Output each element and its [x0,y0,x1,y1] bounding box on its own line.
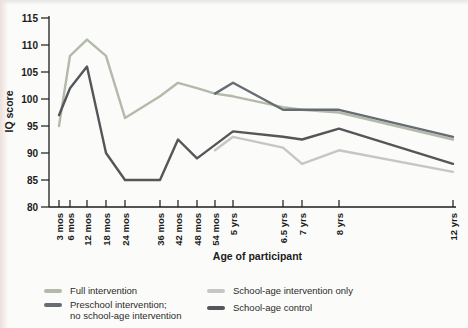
x-tick-label: 54 mos [210,213,221,246]
x-tick-label: 18 mos [101,213,112,246]
series-line-full-intervention [59,40,453,140]
legend-swatch [44,289,62,293]
x-tick-label: 5 yrs [228,213,239,235]
legend-label: School-age intervention only [233,285,353,296]
x-tick-label: 42 mos [173,213,184,246]
y-tick-label: 105 [21,67,38,78]
line-chart: 808590951001051101153 mos6 mos12 mos18 m… [0,0,468,272]
y-tick-label: 85 [27,175,39,186]
x-tick-label: 36 mos [155,213,166,246]
legend-label: Full intervention [70,285,137,296]
legend-swatch [207,306,225,310]
legend-label-line: Preschool intervention; [70,299,181,310]
x-tick-label: 3 mos [54,213,65,240]
legend-item-full-intervention: Full intervention [44,285,137,296]
legend-label: Preschool intervention;no school-age int… [70,299,181,321]
legend-label-line: School-age control [233,302,312,313]
legend-item-school-age-intervention-only: School-age intervention only [207,285,353,296]
y-tick-label: 90 [27,148,39,159]
x-tick-label: 7 yrs [297,213,308,235]
legend-label: School-age control [233,302,312,313]
x-axis-title: Age of participant [213,250,303,262]
legend-label-line: School-age intervention only [233,285,353,296]
series-line-preschool-intervention-no-school-age-intervention [215,83,453,137]
x-tick-label: 24 mos [120,213,131,246]
y-tick-label: 110 [22,40,39,51]
legend-item-preschool-intervention-no-school-age-intervention: Preschool intervention;no school-age int… [44,299,181,321]
x-tick-label: 8 yrs [334,213,345,235]
series-line-school-age-intervention-only [215,137,453,172]
y-tick-label: 100 [21,94,38,105]
y-tick-label: 115 [22,13,39,24]
x-tick-label: 48 mos [192,213,203,246]
x-tick-label: 12 mos [82,213,93,246]
legend-item-school-age-control: School-age control [207,302,312,313]
legend-swatch [44,303,62,307]
x-tick-label: 6 mos [65,213,76,240]
legend-label-line: Full intervention [70,285,137,296]
x-tick-label: 6.5 yrs [278,213,289,243]
legend-label-line: no school-age intervention [70,310,181,321]
x-tick-label: 12 yrs [448,213,459,240]
legend-swatch [207,289,225,293]
figure-iq-intervention-chart: 808590951001051101153 mos6 mos12 mos18 m… [0,0,468,328]
y-tick-label: 80 [27,202,39,213]
y-tick-label: 95 [27,121,39,132]
y-axis-title: IQ score [3,90,15,132]
